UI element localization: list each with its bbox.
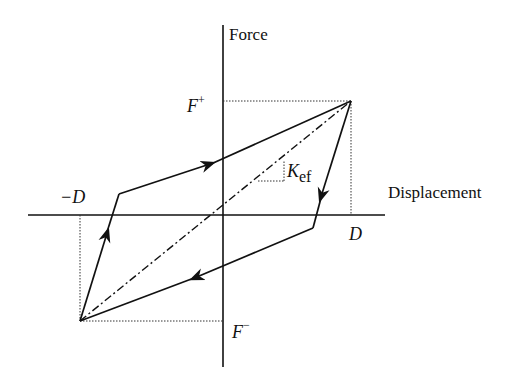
f-plus-label: F+ xyxy=(186,93,205,116)
effective-stiffness-line xyxy=(80,101,351,321)
f-minus-label: F− xyxy=(231,318,250,342)
d-negative-label: −D xyxy=(60,187,85,207)
hysteresis-diagram: Force Displacement F+ F− D −D Kef xyxy=(0,0,514,379)
k-ef-label: Kef xyxy=(286,161,312,185)
displacement-axis-label: Displacement xyxy=(388,183,482,202)
d-positive-label: D xyxy=(348,224,362,244)
force-axis-label: Force xyxy=(229,25,268,44)
